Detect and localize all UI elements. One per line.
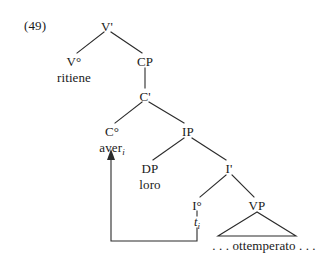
node-label-dp: DP — [142, 162, 159, 175]
node-label-ibar: I' — [226, 162, 233, 175]
edge-ibar-vp — [232, 175, 254, 197]
node-label-vp: VP — [249, 199, 266, 212]
edge-ip-dp — [153, 138, 184, 160]
edge-vbar-vzero — [77, 32, 104, 53]
terminal-aver-text: aver — [99, 140, 122, 155]
terminal-ottemperato: . . . ottemperato . . . — [212, 239, 315, 252]
edge-cbar-czero — [115, 102, 142, 123]
node-label-vbar: V' — [101, 20, 113, 33]
node-label-czero: C° — [105, 125, 119, 138]
edge-ibar-izero — [200, 175, 226, 197]
node-label-cbar: C' — [139, 90, 150, 103]
node-label-izero: I° — [192, 199, 202, 212]
terminal-aver: averi — [99, 141, 124, 157]
terminal-trace-i: ti — [194, 216, 200, 231]
trace-subscript: i — [198, 221, 201, 231]
example-number: (49) — [24, 19, 46, 32]
vp-triangle — [218, 212, 296, 236]
node-label-ip: IP — [182, 125, 194, 138]
terminal-loro: loro — [139, 178, 160, 191]
syntax-tree-figure: (49) V' V° CP C' C° IP DP I' I° VP ritie… — [0, 0, 323, 262]
edge-cbar-ip — [149, 102, 184, 123]
node-label-vzero: V° — [67, 55, 82, 68]
node-label-cp: CP — [137, 55, 153, 68]
tree-lines-svg — [0, 0, 323, 262]
terminal-aver-subscript: i — [122, 147, 125, 157]
edge-ip-ibar — [192, 138, 226, 160]
edge-vbar-cp — [111, 32, 142, 53]
terminal-ritiene: ritiene — [57, 71, 91, 84]
